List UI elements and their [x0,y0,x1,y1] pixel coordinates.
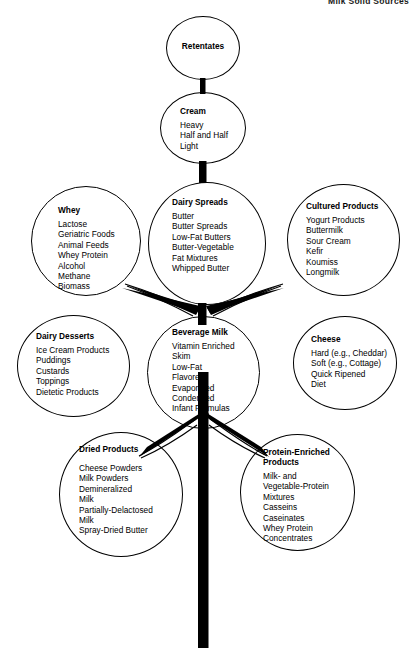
trunk-cream-stem [199,161,207,183]
node-cheese-items: Hard (e.g., Cheddar) Soft (e.g., Cottage… [311,348,396,390]
node-protein-enriched-products-title: Protein-Enriched Products [263,447,354,467]
node-dairy-spreads-items: Butter Butter Spreads Low-Fat Butters Bu… [172,211,265,273]
node-whey-items: Lactose Geriatric Foods Animal Feeds Whe… [58,219,140,292]
node-protein-enriched-products-items: Milk- and Vegetable-Protein Mixtures Cas… [263,471,354,544]
node-cream[interactable]: Cream Heavy Half and Half Light [160,92,246,164]
node-dried-products-title: Dried Products [79,444,182,454]
node-cultured-products[interactable]: Cultured Products Yogurt Products Butter… [287,184,400,296]
node-cream-items: Heavy Half and Half Light [180,120,245,151]
node-retentates[interactable]: Retentates [166,16,240,80]
node-whey[interactable]: Whey Lactose Geriatric Foods Animal Feed… [31,186,141,296]
node-beverage-milk-title: Beverage Milk [172,327,259,337]
node-dairy-spreads[interactable]: Dairy Spreads Butter Butter Spreads Low-… [148,182,266,305]
node-dairy-spreads-title: Dairy Spreads [172,197,265,207]
node-beverage-milk[interactable]: Beverage Milk Vitamin Enriched Skim Low-… [147,316,260,429]
node-dairy-desserts-title: Dairy Desserts [36,331,129,341]
node-cream-title: Cream [180,106,245,116]
node-retentates-title: Retentates [167,41,239,51]
node-cheese-title: Cheese [311,334,396,344]
node-dairy-desserts[interactable]: Dairy Desserts Ice Cream Products Puddin… [17,315,130,417]
node-dairy-desserts-items: Ice Cream Products Puddings Custards Top… [36,345,129,397]
node-cultured-products-items: Yogurt Products Buttermilk Sour Cream Ke… [306,215,399,277]
trunk-lower [198,413,209,648]
node-dried-products[interactable]: Dried Products Cheese Powders Milk Powde… [59,432,183,557]
node-protein-enriched-products[interactable]: Protein-Enriched Products Milk- and Vege… [240,434,355,551]
node-beverage-milk-items: Vitamin Enriched Skim Low-Fat Flavored E… [172,341,259,414]
milk-products-tree-diagram: Milk Solid Sources [0,0,417,648]
node-whey-title: Whey [58,205,140,215]
node-cultured-products-title: Cultured Products [306,201,399,211]
node-cheese[interactable]: Cheese Hard (e.g., Cheddar) Soft (e.g., … [293,316,397,410]
node-dried-products-items: Cheese Powders Milk Powders Demineralize… [79,463,182,536]
